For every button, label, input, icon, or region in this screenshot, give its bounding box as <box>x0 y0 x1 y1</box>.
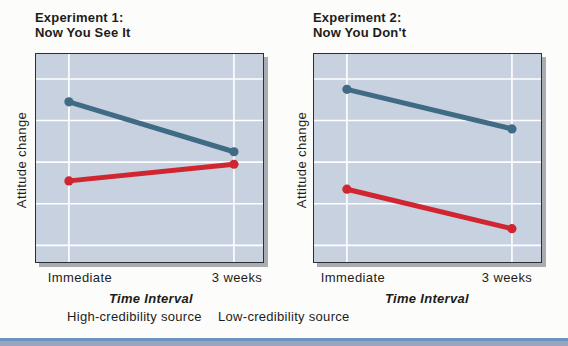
legend-label-high: High-credibility source <box>67 309 202 324</box>
chart1-plot-area <box>36 54 263 262</box>
chart2-title-line2: Now You Don't <box>313 25 406 40</box>
chart1-plot-box <box>35 53 264 263</box>
chart2-title-line1: Experiment 2: <box>313 10 406 25</box>
chart1-y-axis-label: Attitude change <box>14 90 30 230</box>
bottom-rule <box>0 338 568 346</box>
bottom-rule-fill <box>0 341 568 346</box>
chart2-y-axis-label: Attitude change <box>294 90 310 230</box>
chart2-x-axis-label: Time Interval <box>385 291 469 306</box>
chart2-tick-3weeks: 3 weeks <box>482 270 533 285</box>
chart1-title: Experiment 1: Now You See It <box>35 10 131 40</box>
low-credibility-swatch-icon <box>186 314 210 319</box>
chart1-tick-3weeks: 3 weeks <box>212 270 263 285</box>
chart2-plot-area <box>314 54 541 262</box>
figure-canvas: Experiment 1: Now You See It Attitude ch… <box>0 0 568 346</box>
legend-item-high-credibility: High-credibility source <box>35 309 202 324</box>
chart1-title-line2: Now You See It <box>35 25 131 40</box>
chart1-x-axis-label: Time Interval <box>109 291 193 306</box>
chart2-title: Experiment 2: Now You Don't <box>313 10 406 40</box>
chart1-title-line1: Experiment 1: <box>35 10 131 25</box>
legend-item-low-credibility: Low-credibility source <box>186 309 350 324</box>
chart2-plot-box <box>313 53 542 263</box>
chart1-tick-immediate: Immediate <box>48 270 112 285</box>
legend-label-low: Low-credibility source <box>218 309 350 324</box>
high-credibility-swatch-icon <box>35 314 59 319</box>
chart2-tick-immediate: Immediate <box>321 270 385 285</box>
